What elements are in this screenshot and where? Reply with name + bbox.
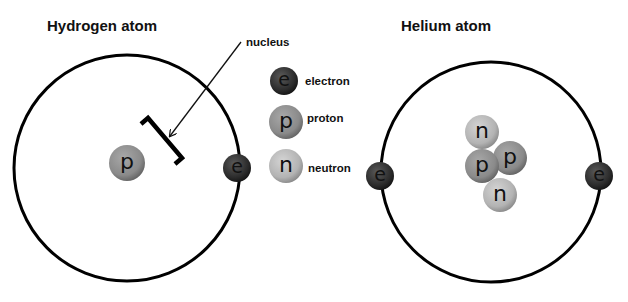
- helium-neutron-bottom: n: [483, 178, 517, 212]
- electron-symbol: e: [231, 155, 243, 177]
- nucleus-label: nucleus: [246, 36, 289, 48]
- proton-symbol: p: [503, 144, 517, 169]
- legend-proton-symbol: p: [279, 108, 293, 133]
- neutron-symbol: n: [493, 181, 507, 206]
- helium-electron-right: e: [585, 162, 613, 190]
- hydrogen-proton: p: [109, 145, 145, 181]
- atom-diagram: Hydrogen atom Helium atom nucleus p e e …: [0, 0, 628, 302]
- legend-neutron-label: neutron: [308, 162, 351, 174]
- diagram-canvas: Hydrogen atom Helium atom nucleus p e e …: [0, 0, 628, 302]
- legend: e electron p proton n neutron: [269, 67, 351, 183]
- legend-item-proton: p proton: [269, 105, 343, 139]
- legend-item-neutron: n neutron: [269, 149, 351, 183]
- legend-electron-label: electron: [305, 75, 350, 87]
- helium-title: Helium atom: [401, 17, 491, 34]
- electron-symbol: e: [593, 163, 605, 185]
- helium-proton-left: p: [465, 149, 499, 183]
- helium-nucleus: n p p n: [465, 115, 527, 212]
- nucleus-bracket: [141, 118, 182, 164]
- electron-symbol: e: [374, 163, 386, 185]
- proton-symbol: p: [475, 152, 489, 177]
- hydrogen-title: Hydrogen atom: [47, 17, 157, 34]
- legend-neutron-symbol: n: [279, 152, 293, 177]
- legend-proton-label: proton: [307, 112, 343, 124]
- proton-symbol: p: [120, 149, 134, 174]
- neutron-symbol: n: [475, 118, 489, 143]
- hydrogen-electron: e: [223, 154, 251, 182]
- legend-item-electron: e electron: [270, 67, 350, 95]
- legend-electron-symbol: e: [278, 68, 290, 90]
- helium-neutron-top: n: [465, 115, 499, 149]
- helium-electron-left: e: [366, 162, 394, 190]
